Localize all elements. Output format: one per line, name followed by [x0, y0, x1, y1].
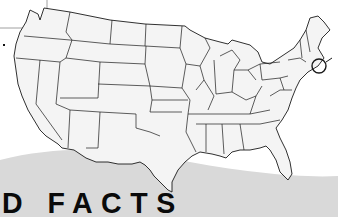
us-map [0, 0, 338, 217]
highlight-pointer [326, 58, 332, 62]
marker-dot [3, 44, 5, 46]
map-figure: D FACTS [0, 0, 338, 217]
heading-facts: D FACTS [2, 188, 184, 217]
